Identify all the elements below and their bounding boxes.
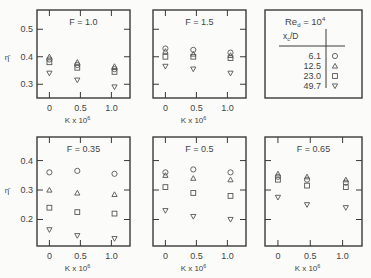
data-point-triangle-up	[275, 171, 280, 176]
chart-panel: 00.51.00.20.30.4η̄F = 0.35K x 106	[5, 137, 130, 273]
legend-entry-label: 23.0	[303, 71, 321, 81]
x-tick-label: 1.0	[105, 103, 118, 113]
data-point-triangle-down	[163, 64, 168, 69]
data-point-square	[228, 194, 233, 199]
data-point-circle	[75, 168, 80, 173]
y-tick-label: 0.2	[20, 214, 33, 224]
chart-panel: 00.51.0F = 0.65K x 106	[265, 137, 362, 273]
panel-title: F = 0.35	[67, 144, 100, 154]
legend-title: Red = 104	[285, 16, 326, 28]
data-point-triangle-down	[275, 195, 280, 200]
data-point-square	[163, 54, 168, 59]
panel-title: F = 0.5	[185, 144, 213, 154]
x-tick-label: 0	[47, 251, 52, 261]
data-point-triangle-down	[112, 85, 117, 90]
data-point-square	[47, 205, 52, 210]
y-tick-label: 0.5	[20, 24, 33, 34]
x-tick-label: 0.5	[304, 251, 317, 261]
data-point-triangle-up	[343, 177, 348, 182]
data-point-square	[163, 185, 168, 190]
y-axis-label: η̄	[5, 53, 11, 62]
data-point-square	[305, 183, 310, 188]
chart-panel: 00.51.00.30.40.5η̄F = 1.0K x 106	[5, 10, 130, 125]
x-axis-label: K x 106	[181, 115, 207, 125]
panel-title: F = 1.0	[69, 17, 97, 27]
x-tick-label: 0	[163, 251, 168, 261]
panel-title: F = 0.65	[297, 144, 330, 154]
x-tick-label: 0	[47, 103, 52, 113]
x-axis-label: K x 106	[181, 263, 207, 273]
x-tick-label: 1.0	[221, 251, 234, 261]
data-point-triangle-up	[228, 177, 233, 182]
data-point-triangle-up	[191, 176, 196, 181]
data-point-triangle-up	[47, 187, 52, 192]
x-tick-label: 1.0	[105, 251, 118, 261]
chart-panel: 00.51.0F = 0.5K x 106	[153, 137, 246, 273]
data-point-triangle-down	[112, 237, 117, 242]
data-point-triangle-down	[163, 209, 168, 214]
y-tick-label: 0.4	[20, 52, 33, 62]
data-point-triangle-down	[228, 71, 233, 76]
y-tick-label: 0.4	[20, 156, 33, 166]
x-axis-label: K x 106	[295, 263, 321, 273]
data-point-circle	[228, 170, 233, 175]
x-tick-label: 0.5	[190, 103, 203, 113]
legend-entry-label: 12.5	[303, 61, 321, 71]
y-axis-label: η̄	[5, 186, 11, 195]
legend: Red = 104 xc/D 6.112.523.049.7	[265, 10, 362, 98]
legend-marker-square	[333, 74, 338, 79]
x-tick-label: 0.5	[190, 251, 203, 261]
legend-marker-triangle-down	[332, 84, 337, 89]
data-point-triangle-down	[191, 67, 196, 72]
data-point-square	[112, 211, 117, 216]
x-axis-label: K x 106	[65, 263, 91, 273]
y-tick-label: 0.3	[20, 79, 33, 89]
data-point-triangle-down	[228, 217, 233, 222]
y-tick-label: 0.3	[20, 185, 33, 195]
legend-entry-label: 6.1	[308, 51, 321, 61]
x-tick-label: 1.0	[336, 251, 349, 261]
data-point-triangle-up	[304, 174, 309, 179]
x-tick-label: 0	[163, 103, 168, 113]
x-tick-label: 0	[275, 251, 280, 261]
data-point-circle	[191, 167, 196, 172]
data-point-triangle-up	[112, 192, 117, 197]
data-point-triangle-down	[75, 234, 80, 239]
data-point-circle	[112, 171, 117, 176]
data-point-triangle-down	[304, 203, 309, 208]
legend-entry-label: 49.7	[303, 81, 321, 91]
data-point-triangle-up	[75, 190, 80, 195]
data-point-triangle-down	[191, 214, 196, 219]
data-point-square	[75, 210, 80, 215]
x-tick-label: 0.5	[74, 103, 87, 113]
legend-marker-circle	[332, 53, 337, 58]
data-point-circle	[47, 170, 52, 175]
data-point-triangle-down	[47, 228, 52, 233]
panel-title: F = 1.5	[185, 17, 213, 27]
x-axis-label: K x 106	[65, 115, 91, 125]
legend-column-header: xc/D	[283, 31, 299, 42]
data-point-triangle-down	[47, 71, 52, 76]
chart-panel: 00.51.0F = 1.5K x 106	[153, 10, 246, 125]
data-point-triangle-down	[343, 206, 348, 211]
data-point-square	[191, 191, 196, 196]
x-tick-label: 1.0	[221, 103, 234, 113]
legend-marker-triangle-up	[332, 63, 337, 68]
x-tick-label: 0.5	[74, 251, 87, 261]
data-point-triangle-down	[75, 78, 80, 83]
figure: 00.51.00.30.40.5η̄F = 1.0K x 10600.51.0F…	[0, 0, 371, 278]
